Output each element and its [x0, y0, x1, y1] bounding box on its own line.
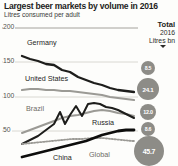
y-tick-50: 50 — [3, 126, 12, 133]
series-label-china: China — [53, 154, 72, 162]
series-label-russia: Russia — [92, 119, 114, 127]
total-badge-brazil: 12.0 — [140, 104, 156, 120]
series-label-germany: Germany — [27, 39, 57, 47]
total-badge-china: 45.7 — [134, 136, 164, 166]
total-panel-title: Total — [129, 20, 175, 29]
total-badge-russia: 8.6 — [141, 122, 155, 136]
y-tick-100: 100 — [3, 92, 15, 99]
beer-markets-chart: Largest beer markets by volume in 2016 L… — [0, 0, 178, 166]
chart-title: Largest beer markets by volume in 2016 — [4, 1, 176, 11]
triangle-down-icon — [160, 45, 166, 48]
total-panel-year: 2016 — [129, 29, 175, 37]
total-panel: Total 2016 Litres bn — [129, 20, 175, 48]
y-tick-150: 150 — [3, 57, 15, 64]
series-line-brazil — [22, 110, 134, 133]
series-label-global: Global — [89, 151, 110, 159]
total-panel-unit: Litres bn — [129, 37, 175, 45]
series-label-united-states: United States — [25, 75, 68, 83]
chart-subtitle: Litres consumed per adult — [4, 11, 144, 19]
total-badge-germany: 8.5 — [141, 61, 155, 75]
series-line-china — [22, 130, 134, 157]
series-label-brazil: Brazil — [26, 105, 44, 113]
total-badge-united-states: 24.1 — [137, 78, 159, 100]
y-tick-200: 200 — [3, 23, 15, 30]
